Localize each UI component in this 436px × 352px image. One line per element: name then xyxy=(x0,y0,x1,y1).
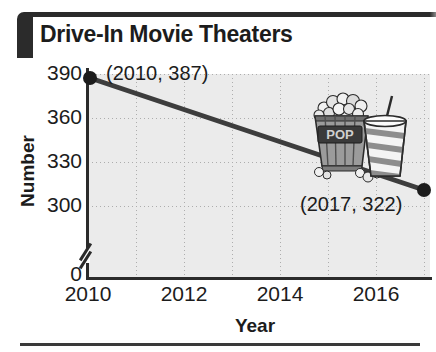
bottom-rule xyxy=(20,343,420,346)
popcorn-box-label: POP xyxy=(326,127,354,142)
data-point-annotation: (2010, 387) xyxy=(106,62,208,85)
chart-figure: Drive-In Movie Theaters Number Year 390 … xyxy=(0,0,436,352)
gridline-vertical xyxy=(184,74,185,277)
axis-break-icon xyxy=(80,243,98,269)
y-tick-label: 330 xyxy=(47,149,82,173)
x-axis-line xyxy=(86,277,432,280)
gridline-vertical xyxy=(232,74,233,277)
x-tick-label: 2014 xyxy=(245,282,315,306)
x-tick-label: 2010 xyxy=(53,282,123,306)
y-tick-label: 390 xyxy=(47,61,82,85)
gridline-vertical xyxy=(424,74,425,277)
gridline-vertical xyxy=(280,74,281,277)
popcorn-box-icon: POP xyxy=(315,116,368,171)
soda-cup-icon xyxy=(364,96,406,176)
data-point-annotation: (2017, 322) xyxy=(300,193,402,216)
x-tick-label: 2016 xyxy=(341,282,411,306)
x-tick-label: 2012 xyxy=(149,282,219,306)
y-tick-label: 360 xyxy=(47,105,82,129)
gridline-vertical xyxy=(136,74,137,277)
y-tick-label: 300 xyxy=(47,193,82,217)
popcorn-and-soda-illustration: POP xyxy=(306,90,414,186)
x-axis-title: Year xyxy=(85,315,425,337)
top-rule xyxy=(24,12,436,17)
